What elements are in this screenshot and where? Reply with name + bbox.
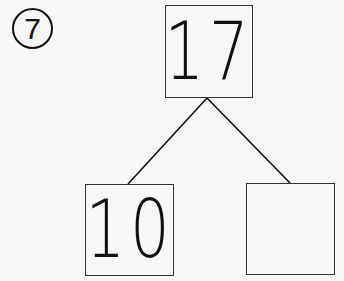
whole-box: 17 [165,5,253,98]
connector-left [128,98,207,184]
problem-number: 7 [24,14,41,44]
connector-right [207,98,290,183]
part-value-left: 10 [85,190,174,270]
part-box-left: 10 [85,184,174,276]
part-box-right-answer[interactable] [246,183,335,275]
whole-value: 17 [165,12,254,92]
problem-number-badge: 7 [12,8,53,49]
